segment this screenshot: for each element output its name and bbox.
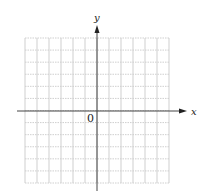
x-axis-label: x	[191, 106, 197, 117]
coordinate-plane: x y 0	[0, 0, 202, 196]
origin-label: 0	[87, 112, 94, 125]
x-axis-arrow-icon	[179, 109, 187, 114]
y-axis-label: y	[93, 12, 100, 23]
y-axis: y	[93, 12, 100, 191]
x-axis: x	[17, 106, 197, 117]
y-axis-arrow-icon	[95, 25, 100, 33]
